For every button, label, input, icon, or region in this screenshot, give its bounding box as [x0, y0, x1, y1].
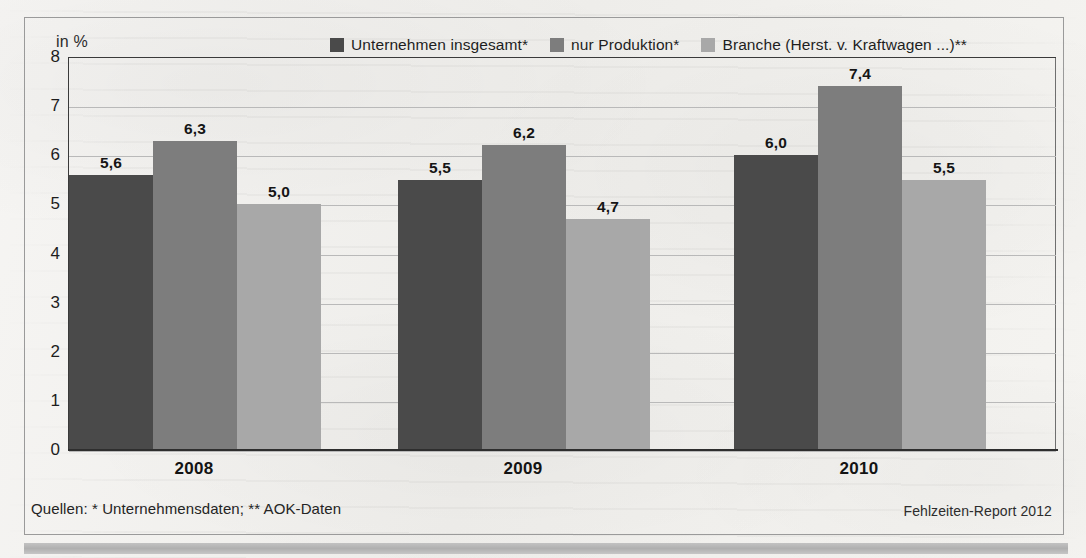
legend-swatch-icon [701, 38, 715, 52]
bar[interactable] [902, 180, 986, 450]
bar[interactable] [398, 180, 482, 450]
bar-value-label: 4,7 [566, 198, 650, 216]
bar-value-label: 5,5 [902, 159, 986, 177]
y-axis-tick-label: 8 [30, 47, 60, 67]
legend-item-label: nur Produktion* [571, 36, 679, 54]
x-axis-group-label: 2009 [397, 459, 649, 479]
y-axis-tick-label: 4 [30, 244, 60, 264]
bar-value-label: 6,2 [482, 124, 566, 142]
bar[interactable] [153, 141, 237, 450]
legend-item-nur-produktion[interactable]: nur Produktion* [550, 36, 679, 54]
y-axis-tick-label: 6 [30, 145, 60, 165]
bar-value-label: 7,4 [818, 65, 902, 83]
legend-item-branche[interactable]: Branche (Herst. v. Kraftwagen ...)** [701, 36, 967, 54]
y-axis-tick-label: 0 [30, 440, 60, 460]
bar[interactable] [482, 145, 566, 450]
y-axis-tick-label: 3 [30, 293, 60, 313]
plot-area: 5,66,35,05,56,24,76,07,45,5 [68, 57, 1056, 450]
legend-item-label: Unternehmen insgesamt* [351, 36, 528, 54]
bar-value-label: 5,0 [237, 183, 321, 201]
bar[interactable] [237, 204, 321, 450]
legend-item-label: Branche (Herst. v. Kraftwagen ...)** [722, 36, 967, 54]
legend-swatch-icon [550, 38, 564, 52]
x-axis-baseline [68, 449, 1058, 451]
footer-source-note: Quellen: * Unternehmensdaten; ** AOK-Dat… [31, 500, 341, 517]
y-axis-unit-label: in % [56, 33, 88, 51]
legend-item-unternehmen-insgesamt[interactable]: Unternehmen insgesamt* [330, 36, 528, 54]
bar-value-label: 6,3 [153, 120, 237, 138]
chart-legend: Unternehmen insgesamt* nur Produktion* B… [330, 36, 967, 54]
gridline [69, 107, 1056, 108]
bar-value-label: 5,6 [69, 154, 153, 172]
y-axis-tick-label: 2 [30, 342, 60, 362]
y-axis-tick-label: 1 [30, 391, 60, 411]
chart-page: in % Unternehmen insgesamt* nur Produkti… [0, 0, 1086, 558]
x-axis-group-label: 2010 [733, 459, 985, 479]
footer-report-credit: Fehlzeiten-Report 2012 [903, 503, 1052, 519]
bar[interactable] [566, 219, 650, 450]
x-axis-group-label: 2008 [68, 459, 320, 479]
bar[interactable] [818, 86, 902, 450]
legend-swatch-icon [330, 38, 344, 52]
bar-value-label: 5,5 [398, 159, 482, 177]
bar-value-label: 6,0 [734, 134, 818, 152]
bar[interactable] [69, 175, 153, 450]
bottom-gray-band [24, 543, 1068, 554]
bar[interactable] [734, 155, 818, 450]
y-axis-tick-label: 7 [30, 96, 60, 116]
y-axis-tick-label: 5 [30, 194, 60, 214]
